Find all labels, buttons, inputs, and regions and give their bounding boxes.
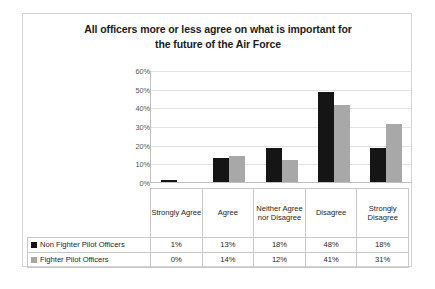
column-header: Strongly Agree (151, 189, 203, 238)
bar-group (360, 71, 412, 182)
plot-region: 60% 50% 40% 30% 20% 10% 0% (127, 66, 412, 188)
bar (370, 148, 386, 182)
legend-entry-non-fighter-pilot-officers[interactable]: Non Fighter Pilot Officers (28, 238, 151, 253)
table-cell: 41% (305, 253, 357, 268)
legend-label: Fighter Pilot Officers (40, 255, 109, 264)
table-cell: 48% (305, 238, 357, 253)
bar (161, 180, 177, 182)
bar (334, 105, 350, 182)
table-cell: 14% (202, 253, 254, 268)
y-axis-tick: 10% (127, 160, 150, 169)
table-cell: 12% (254, 253, 306, 268)
bar-group (203, 71, 255, 182)
column-header: Neither Agree nor Disagree (254, 189, 306, 238)
bars-layer (151, 71, 412, 182)
y-axis-tick: 30% (127, 123, 150, 132)
table-row: Fighter Pilot Officers 0% 14% 12% 41% 31… (28, 253, 409, 268)
table-cell: 13% (202, 238, 254, 253)
table-cell: 1% (151, 238, 203, 253)
bar-group (151, 71, 203, 182)
y-axis-tick: 20% (127, 141, 150, 150)
data-legend-table: Strongly Agree Agree Neither Agree nor D… (27, 188, 409, 268)
bar (229, 156, 245, 182)
table-row: Non Fighter Pilot Officers 1% 13% 18% 48… (28, 238, 409, 253)
table-cell: 18% (357, 238, 409, 253)
y-axis: 60% 50% 40% 30% 20% 10% 0% (127, 66, 150, 188)
chart-title-line-1: All officers more or less agree on what … (41, 22, 395, 37)
bar (213, 158, 229, 182)
y-axis-tick: 0% (127, 179, 150, 188)
table-cell: 0% (151, 253, 203, 268)
chart-title: All officers more or less agree on what … (41, 22, 395, 52)
table-corner-cell (28, 189, 151, 238)
y-axis-tick: 50% (127, 85, 150, 94)
bar (266, 148, 282, 182)
plot-area (150, 71, 412, 183)
y-axis-tick: 60% (127, 67, 150, 76)
legend-swatch-icon (31, 257, 37, 263)
column-header: Strongly Disagree (357, 189, 409, 238)
bar (282, 160, 298, 182)
table-header-row: Strongly Agree Agree Neither Agree nor D… (28, 189, 409, 238)
legend-label: Non Fighter Pilot Officers (40, 240, 125, 249)
table-cell: 31% (357, 253, 409, 268)
chart-card: All officers more or less agree on what … (22, 13, 412, 267)
bar-group (308, 71, 360, 182)
column-header: Agree (202, 189, 254, 238)
bar (386, 124, 402, 182)
legend-entry-fighter-pilot-officers[interactable]: Fighter Pilot Officers (28, 253, 151, 268)
chart-title-line-2: the future of the Air Force (41, 37, 395, 52)
bar (318, 92, 334, 182)
bar-group (255, 71, 307, 182)
column-header: Disagree (305, 189, 357, 238)
table-cell: 18% (254, 238, 306, 253)
y-axis-tick: 40% (127, 104, 150, 113)
legend-swatch-icon (31, 242, 37, 248)
